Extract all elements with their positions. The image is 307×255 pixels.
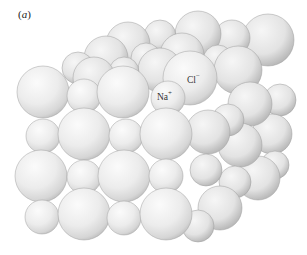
lattice-drawing — [0, 0, 307, 255]
panel-paren-close: ) — [27, 8, 31, 20]
cl-ion-sphere — [58, 108, 110, 160]
cl-ion-sphere — [15, 150, 67, 202]
sodium-ion-label: Na+ — [157, 90, 172, 102]
nacl-lattice-figure: (a) Na+ Cl− — [0, 0, 307, 255]
na-ion-sphere — [107, 201, 141, 235]
right-face-layer — [182, 82, 296, 242]
na-ion-sphere — [109, 119, 143, 153]
cl-ion-sphere — [98, 150, 150, 202]
chloride-symbol: Cl — [187, 75, 196, 85]
chloride-charge: − — [196, 72, 200, 80]
na-ion-sphere — [25, 200, 59, 234]
sodium-symbol: Na — [157, 92, 168, 102]
cl-ion-sphere — [140, 108, 192, 160]
cl-ion-sphere — [58, 188, 110, 240]
panel-label: (a) — [18, 8, 31, 20]
chloride-ion-label: Cl− — [187, 73, 200, 85]
cl-ion-sphere — [17, 66, 69, 118]
sodium-charge: + — [168, 89, 172, 97]
na-ion-sphere — [26, 119, 60, 153]
cl-ion-sphere — [140, 188, 192, 240]
cl-ion-sphere — [97, 66, 149, 118]
